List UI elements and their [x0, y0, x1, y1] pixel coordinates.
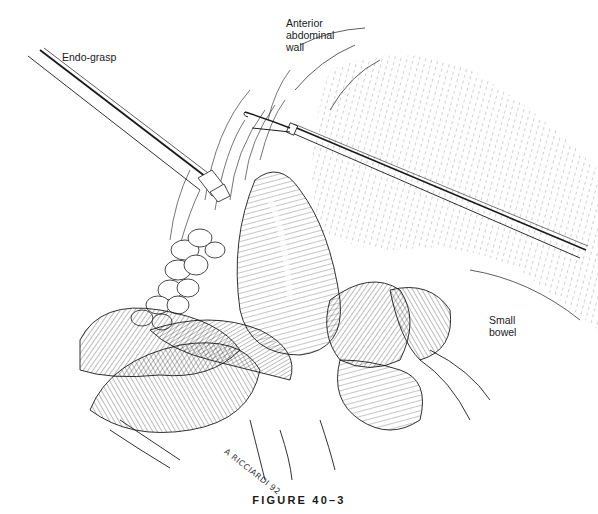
figure-caption: FIGURE 40–3 — [0, 494, 598, 506]
label-endo-grasp: Endo-grasp — [62, 51, 116, 63]
surgical-illustration — [0, 0, 598, 514]
anterior-abdominal-wall — [295, 28, 598, 330]
endo-grasp-instrument — [28, 48, 230, 202]
label-anterior-abdominal-wall: Anterior abdominal wall — [286, 17, 334, 53]
label-small-bowel: Small bowel — [489, 314, 516, 338]
